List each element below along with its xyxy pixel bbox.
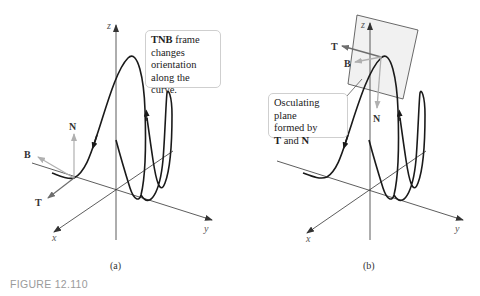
n-vector-label-b: N xyxy=(373,113,381,124)
tangent-vector-a xyxy=(48,178,74,198)
callout-text: frame xyxy=(173,34,200,45)
callout-bold-t: T xyxy=(274,135,281,146)
x-axis-label-b: x xyxy=(305,233,311,244)
callout-line: T and N xyxy=(274,135,342,148)
callout-line: along the curve. xyxy=(151,72,215,97)
z-axis-label-b: z xyxy=(360,19,365,30)
callout-line: formed by xyxy=(274,122,342,135)
b-vector-label-a: B xyxy=(24,149,31,160)
x-axis xyxy=(54,151,173,232)
caption-panel-a: (a) xyxy=(110,260,121,271)
figure-canvas: z y x N B T z y x T B N xyxy=(0,0,480,296)
t-vector-label-a: T xyxy=(35,197,42,208)
callout-line: Osculating plane xyxy=(274,97,342,122)
callout-line: TNB frame xyxy=(151,34,215,47)
callout-line: orientation xyxy=(151,59,215,72)
figure-number-label: FIGURE 12.110 xyxy=(10,278,88,290)
callout-line: changes xyxy=(151,47,215,60)
callout-bold-tnb: TNB xyxy=(151,34,173,45)
helix-curve-a xyxy=(52,56,146,199)
curve-direction-arrow xyxy=(400,113,401,121)
callout-tnb-frame: TNB frame changes orientation along the … xyxy=(145,30,221,88)
callout-osculating-plane: Osculating plane formed by T and N xyxy=(268,93,348,138)
n-vector-label-a: N xyxy=(69,121,77,132)
b-vector-label-b: B xyxy=(344,58,351,69)
curve-direction-arrow xyxy=(147,113,148,121)
caption-panel-b: (b) xyxy=(363,260,375,271)
z-axis-label-a: z xyxy=(106,20,111,31)
callout-bold-n: N xyxy=(301,135,309,146)
callout-text: and xyxy=(281,135,301,146)
t-vector-label-b: T xyxy=(331,41,338,52)
y-axis-label-b: y xyxy=(454,223,460,234)
curve-direction-arrow xyxy=(94,135,98,146)
y-axis-label-a: y xyxy=(203,223,209,234)
x-axis-label-a: x xyxy=(51,232,57,243)
y-axis xyxy=(32,163,212,220)
